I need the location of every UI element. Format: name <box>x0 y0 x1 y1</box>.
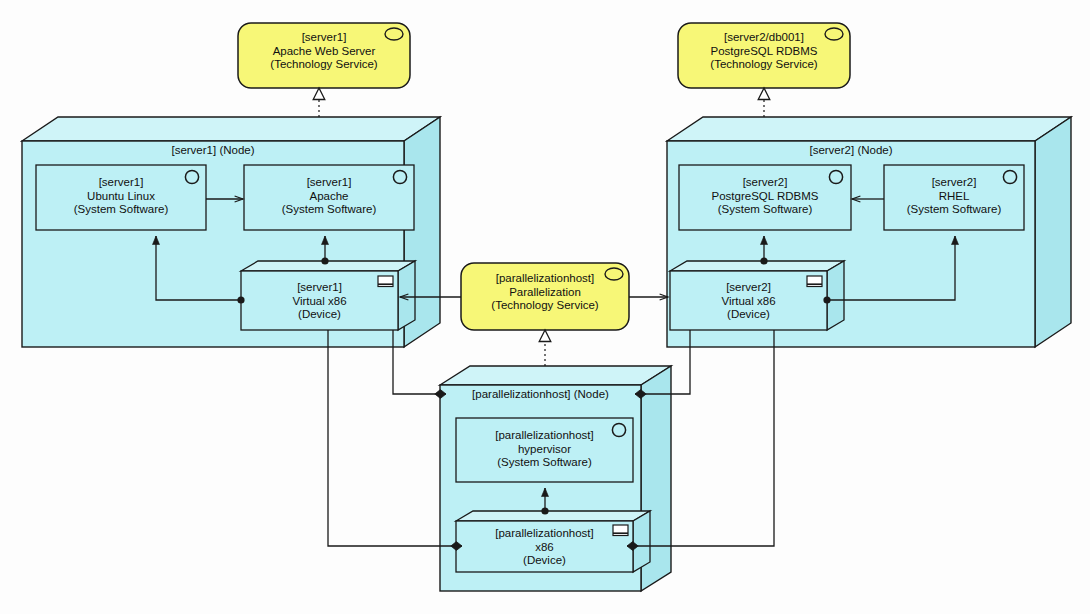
parallelizationhost-hypervisor-shape[interactable] <box>456 418 633 482</box>
postgresql-rdbms-service-shape[interactable] <box>678 23 850 88</box>
parallelization-shape[interactable] <box>461 263 629 330</box>
monitor-icon <box>807 276 822 287</box>
monitor-icon <box>378 276 393 287</box>
relationship-realization-postgresql <box>758 88 770 117</box>
server1-ubuntu-shape[interactable] <box>36 165 206 230</box>
diagram-shapes-layer <box>0 0 1090 614</box>
monitor-icon <box>613 525 628 536</box>
rounded-oval-icon <box>605 268 623 280</box>
server2-postgresql-shape[interactable] <box>679 165 851 230</box>
rounded-oval-icon <box>385 28 403 40</box>
apache-web-server-shape[interactable] <box>238 23 410 88</box>
server1-virtual-x86-shape[interactable] <box>241 261 415 330</box>
relationship-realization-apache <box>313 88 325 117</box>
diagram-canvas: [server1] Apache Web Server (Technology … <box>0 0 1090 614</box>
server2-rhel-shape[interactable] <box>884 165 1024 230</box>
relationship-realization-parallelization <box>539 330 551 366</box>
server2-virtual-x86-shape[interactable] <box>670 261 844 330</box>
rounded-oval-icon <box>825 28 843 40</box>
parallelizationhost-x86-shape[interactable] <box>456 511 650 572</box>
server1-apache-shape[interactable] <box>244 165 414 230</box>
